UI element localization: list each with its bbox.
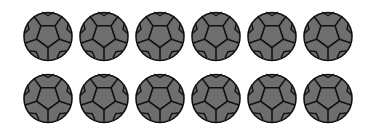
soccer-ball-icon	[191, 73, 241, 124]
soccer-ball-icon	[247, 11, 297, 62]
soccer-ball-icon	[247, 73, 297, 124]
ball-row-1	[23, 11, 353, 62]
soccer-ball-icon	[23, 73, 73, 124]
soccer-ball-icon	[135, 73, 185, 124]
soccer-ball-icon	[135, 11, 185, 62]
soccer-ball-icon	[303, 11, 353, 62]
soccer-ball-icon	[23, 11, 73, 62]
soccer-ball-icon	[79, 73, 129, 124]
soccer-ball-icon	[303, 73, 353, 124]
ball-grid	[0, 0, 372, 134]
soccer-ball-icon	[191, 11, 241, 62]
ball-row-2	[23, 73, 353, 124]
soccer-ball-icon	[79, 11, 129, 62]
